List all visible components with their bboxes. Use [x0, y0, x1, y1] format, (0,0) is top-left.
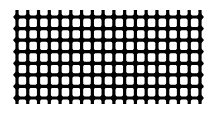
grid-joint	[24, 36, 32, 44]
grid-joint	[45, 71, 53, 79]
grid-joint	[88, 24, 96, 32]
grid-joint	[77, 82, 85, 90]
grid-joint	[56, 36, 64, 44]
grid-joint	[163, 82, 171, 90]
grid-joint	[45, 36, 53, 44]
grid-joint	[131, 24, 139, 32]
grid-joint	[99, 82, 107, 90]
grid-joint	[24, 59, 32, 67]
mesh-grid-graphic	[0, 0, 215, 113]
grid-joint	[77, 94, 85, 102]
grid-joint	[153, 24, 161, 32]
grid-joint	[88, 36, 96, 44]
grid-joint	[56, 59, 64, 67]
grid-joint	[67, 13, 75, 21]
grid-joint	[163, 24, 171, 32]
grid-joint	[142, 59, 150, 67]
grid-joint	[45, 59, 53, 67]
grid-joint	[45, 13, 53, 21]
grid-joint	[153, 82, 161, 90]
grid-joint	[13, 71, 21, 79]
grid-joint	[120, 71, 128, 79]
grid-joint	[153, 47, 161, 55]
grid-joint	[185, 36, 193, 44]
grid-joint	[99, 24, 107, 32]
grid-joint	[131, 71, 139, 79]
grid-joint	[13, 47, 21, 55]
grid-joint	[196, 13, 204, 21]
grid-joint	[67, 82, 75, 90]
grid-joint	[88, 71, 96, 79]
grid-joint	[110, 82, 118, 90]
grid-joint	[34, 36, 42, 44]
grid-joint	[45, 47, 53, 55]
grid-joint	[142, 13, 150, 21]
grid-joint	[99, 13, 107, 21]
grid-joint	[142, 36, 150, 44]
grid-joint	[131, 82, 139, 90]
grid-joint	[120, 94, 128, 102]
grid-joint	[142, 24, 150, 32]
grid-joint	[110, 94, 118, 102]
grid-joint	[13, 13, 21, 21]
grid-joint	[153, 59, 161, 67]
grid-joint	[24, 24, 32, 32]
grid-joint	[24, 47, 32, 55]
grid-joint	[24, 13, 32, 21]
grid-joint	[45, 94, 53, 102]
grid-joint	[196, 24, 204, 32]
grid-joint	[67, 47, 75, 55]
grid-joint	[185, 71, 193, 79]
grid-joint	[120, 47, 128, 55]
grid-joint	[185, 94, 193, 102]
grid-joint	[67, 59, 75, 67]
grid-joint	[196, 36, 204, 44]
grid-joint	[120, 82, 128, 90]
grid-joint	[56, 24, 64, 32]
grid-joint	[110, 71, 118, 79]
grid-joint	[185, 59, 193, 67]
grid-joint	[56, 82, 64, 90]
grid-joint	[174, 94, 182, 102]
grid-joint	[185, 47, 193, 55]
grid-joint	[67, 24, 75, 32]
grid-joint	[163, 71, 171, 79]
grid-joint	[34, 47, 42, 55]
grid-joint	[174, 59, 182, 67]
grid-joint	[185, 13, 193, 21]
grid-joint	[13, 94, 21, 102]
grid-joint	[34, 94, 42, 102]
grid-joint	[45, 82, 53, 90]
grid-joint	[174, 47, 182, 55]
grid-joint	[77, 59, 85, 67]
grid-joint	[110, 59, 118, 67]
grid-joint	[99, 71, 107, 79]
grid-joint	[99, 59, 107, 67]
grid-joint	[110, 13, 118, 21]
grid-joint	[67, 36, 75, 44]
grid-joints	[13, 13, 204, 102]
grid-joint	[153, 94, 161, 102]
grid-joint	[88, 94, 96, 102]
grid-joint	[131, 47, 139, 55]
grid-joint	[110, 36, 118, 44]
grid-joint	[77, 47, 85, 55]
grid-joint	[131, 13, 139, 21]
grid-joint	[24, 94, 32, 102]
grid-joint	[77, 13, 85, 21]
grid-joint	[13, 24, 21, 32]
grid-joint	[174, 13, 182, 21]
grid-joint	[88, 13, 96, 21]
grid-joint	[99, 94, 107, 102]
grid-joint	[163, 13, 171, 21]
grid-joint	[88, 82, 96, 90]
grid-joint	[153, 13, 161, 21]
grid-joint	[77, 24, 85, 32]
grid-joint	[34, 71, 42, 79]
grid-joint	[163, 59, 171, 67]
grid-joint	[196, 94, 204, 102]
grid-joint	[56, 71, 64, 79]
grid-joint	[13, 36, 21, 44]
grid-joint	[142, 94, 150, 102]
grid-joint	[153, 71, 161, 79]
